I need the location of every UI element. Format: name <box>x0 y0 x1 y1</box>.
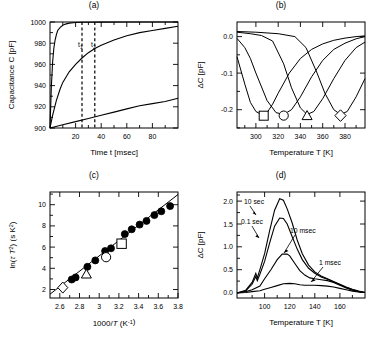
panel-b-y-tick-labels: 0.0 -0.1 -0.2 <box>221 33 233 113</box>
y-tick-0: 0.0 <box>223 33 233 40</box>
panel-c: (c) <box>0 170 188 342</box>
x-tick-80: 80 <box>149 133 157 140</box>
panel-c-open-points <box>58 239 127 293</box>
panel-a-curves <box>50 22 178 128</box>
panel-b-ylabel: ΔC [pF] <box>196 61 205 88</box>
x-tick-60: 60 <box>123 133 131 140</box>
panel-a-y-tick-labels: 900 920 940 960 980 1000 <box>30 19 46 132</box>
marker-square <box>117 239 126 248</box>
panel-a-ylabel: Capacitance C [pF] <box>7 41 16 109</box>
y-tick-10: 10 <box>38 201 46 208</box>
y-tick-1000: 1000 <box>30 19 46 26</box>
y-tick-05: 0.5 <box>223 266 233 273</box>
panel-a-time-gates: t1 t2 <box>78 22 96 128</box>
x-tick-100: 100 <box>259 303 271 310</box>
panel-d-annotations: 10 sec 0.1 sec 10 msec 1 msec <box>241 198 342 282</box>
panel-d-xlabel: Temperature T [K] <box>269 318 333 327</box>
annotation-t2: t2 <box>91 41 96 50</box>
panel-c-plot: 2 4 6 8 10 2.6 2.8 3 3.2 3.4 3.6 3.8 100… <box>0 170 188 342</box>
panel-c-y-tick-labels: 2 4 6 8 10 <box>38 201 46 293</box>
annotation-t1: t1 <box>78 41 83 50</box>
panel-c-label: (c) <box>0 170 188 180</box>
x-tick-28: 2.8 <box>75 303 85 310</box>
marker-circle <box>102 253 111 262</box>
arrowhead-01-sec <box>255 235 259 239</box>
panel-c-xlabel: 1000/T (K-1) <box>93 317 136 329</box>
y-tick-neg01: -0.1 <box>221 70 233 77</box>
panel-b-y-ticks <box>237 37 365 128</box>
panel-a-x-tick-labels: 20 40 60 80 <box>72 133 157 140</box>
figure-root: (a) <box>0 0 375 342</box>
curve-slow-transient <box>50 98 178 128</box>
data-point <box>72 274 79 281</box>
panel-d-y-tick-labels: 0.0 0.5 1.0 1.5 2.0 <box>223 198 233 296</box>
x-tick-34: 3.4 <box>134 303 144 310</box>
panel-b-label: (b) <box>187 0 375 10</box>
y-tick-960: 960 <box>34 61 46 68</box>
x-tick-140: 140 <box>309 303 321 310</box>
x-tick-32: 3.2 <box>114 303 124 310</box>
x-tick-340: 340 <box>295 133 307 140</box>
x-tick-360: 360 <box>317 133 329 140</box>
panel-d: (d) <box>187 170 375 342</box>
panel-a-label: (a) <box>0 0 188 10</box>
data-point <box>136 221 143 228</box>
x-tick-36: 3.6 <box>153 303 163 310</box>
y-tick-15: 1.5 <box>223 221 233 228</box>
y-tick-4: 4 <box>42 265 46 272</box>
panel-b-xlabel: Temperature T [K] <box>269 148 333 157</box>
y-tick-2: 2 <box>42 286 46 293</box>
marker-diamond <box>58 282 68 293</box>
y-tick-920: 920 <box>34 103 46 110</box>
x-tick-120: 120 <box>284 303 296 310</box>
x-tick-40: 40 <box>97 133 105 140</box>
x-tick-300: 300 <box>250 133 262 140</box>
curve-rate-window-2 <box>237 37 365 115</box>
x-tick-38: 3.8 <box>173 303 183 310</box>
x-tick-30: 3 <box>97 303 101 310</box>
annotation-10-sec: 10 sec <box>244 198 265 205</box>
x-tick-380: 380 <box>339 133 351 140</box>
panel-c-x-tick-labels: 2.6 2.8 3 3.2 3.4 3.6 3.8 <box>55 303 183 310</box>
panel-d-curves <box>237 199 365 293</box>
panel-b-markers <box>259 110 346 122</box>
annotation-01-sec: 0.1 sec <box>241 218 264 225</box>
data-point <box>92 257 99 264</box>
y-tick-6: 6 <box>42 244 46 251</box>
panel-d-label: (d) <box>187 170 375 180</box>
panel-a: (a) <box>0 0 188 171</box>
panel-d-axes <box>237 192 365 298</box>
panel-d-x-tick-labels: 100 120 140 160 <box>259 303 346 310</box>
panel-a-plot: 900 920 940 960 980 1000 20 40 60 80 Tim… <box>0 0 188 171</box>
annotation-1-msec: 1 msec <box>319 259 342 266</box>
annotation-10-msec: 10 msec <box>290 227 316 234</box>
panel-c-ylabel: ln(τ T2) (s K2) <box>8 221 18 268</box>
marker-circle <box>279 111 288 120</box>
panel-a-xlabel: Time t [msec] <box>90 148 138 157</box>
data-point <box>121 231 128 238</box>
y-tick-900: 900 <box>34 125 46 132</box>
arrowhead-10-sec <box>253 211 256 215</box>
panel-d-plot: 0.0 0.5 1.0 1.5 2.0 100 120 140 160 Temp… <box>187 170 375 342</box>
marker-square <box>259 111 268 120</box>
y-tick-940: 940 <box>34 82 46 89</box>
y-tick-10: 1.0 <box>223 243 233 250</box>
panel-d-x-ticks <box>252 192 352 298</box>
data-point <box>143 217 150 224</box>
marker-triangle <box>81 269 91 278</box>
x-tick-20: 20 <box>72 133 80 140</box>
y-tick-8: 8 <box>42 222 46 229</box>
x-tick-160: 160 <box>334 303 346 310</box>
panel-b-curves <box>237 32 365 115</box>
data-point <box>158 208 165 215</box>
data-point <box>84 263 91 270</box>
data-point <box>128 226 135 233</box>
curve-rate-window-1 <box>237 36 365 115</box>
panel-b-x-tick-labels: 300 320 340 360 380 <box>250 133 351 140</box>
y-tick-20: 2.0 <box>223 198 233 205</box>
y-tick-neg02: -0.2 <box>221 106 233 113</box>
data-point <box>167 203 174 210</box>
x-tick-320: 320 <box>272 133 284 140</box>
panel-b: (b) <box>187 0 375 171</box>
y-tick-00: 0.0 <box>223 289 233 296</box>
